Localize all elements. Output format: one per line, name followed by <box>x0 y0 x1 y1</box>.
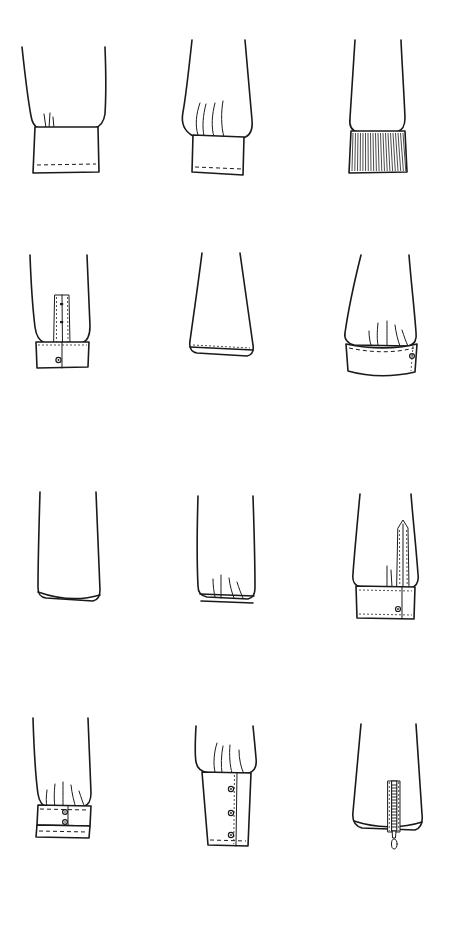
tower-placket <box>54 295 70 343</box>
cuff-lower-band <box>36 825 90 838</box>
cuff-band <box>36 342 89 368</box>
cuff-band <box>346 344 417 376</box>
sleeve-body-outline <box>350 40 405 132</box>
figure-ribbed-knit-cuff <box>301 0 452 233</box>
figure-zip-cuff-sleeve <box>301 698 452 931</box>
zip-pull-tab <box>392 831 398 849</box>
figure-straight-banded-cuff <box>0 0 151 233</box>
tower-placket <box>397 520 409 588</box>
long-cuff <box>202 772 251 846</box>
figure-pleated-banded-cuff <box>151 0 302 233</box>
barrel-cuff <box>356 585 415 618</box>
sleeve-body-outline <box>189 253 252 356</box>
figure-grid <box>0 0 452 931</box>
rib-knit-band <box>349 131 407 173</box>
cuff-button <box>396 606 401 611</box>
sleeve-body-outline <box>182 40 252 138</box>
sleeve-body-outline <box>22 47 106 128</box>
figure-plain-straight-sleeve <box>0 466 151 699</box>
figure-elasticated-hem-sleeve <box>151 466 302 699</box>
illustration-sheet <box>0 0 452 931</box>
sleeve-body-outline <box>197 496 255 599</box>
sleeve-body-outline <box>38 492 100 601</box>
sleeve-body-outline <box>33 718 91 807</box>
figure-double-button-gathered-cuff <box>0 698 151 931</box>
sleeve-body-outline <box>195 726 256 773</box>
sleeve-body-outline <box>345 255 416 346</box>
cuff-band <box>192 135 244 175</box>
zipper <box>388 781 400 849</box>
cuff-band <box>33 127 99 173</box>
figure-gathered-cuff-side-button <box>301 233 452 466</box>
cuff-button <box>56 357 61 362</box>
figure-tower-placket-cuff <box>301 466 452 699</box>
figure-long-three-button-cuff <box>151 698 302 931</box>
figure-placket-cuff-single-button <box>0 233 151 466</box>
zip-teeth <box>392 785 397 827</box>
figure-flared-hem-sleeve <box>151 233 302 466</box>
